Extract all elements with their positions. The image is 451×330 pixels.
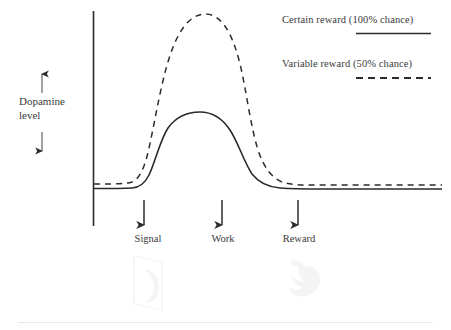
legend-label-certain-reward: Certain reward (100% chance) (282, 14, 413, 26)
curve-certain-reward (94, 112, 442, 189)
event-label-reward: Reward (283, 233, 316, 245)
event-label-signal: Signal (135, 233, 162, 245)
figure-canvas (0, 0, 451, 330)
y-axis-label: Dopamine level (19, 95, 89, 123)
event-label-work: Work (211, 233, 234, 245)
y-axis-label-line1: Dopamine (19, 95, 65, 107)
signal-cue-watermark (128, 252, 172, 314)
y-axis-label-line2: level (19, 109, 40, 121)
curve-variable-reward (94, 14, 442, 185)
legend-label-variable-reward: Variable reward (50% chance) (282, 58, 412, 70)
reward-watermark (280, 252, 326, 304)
dopamine-level-figure: Certain reward (100% chance) Variable re… (0, 0, 451, 330)
